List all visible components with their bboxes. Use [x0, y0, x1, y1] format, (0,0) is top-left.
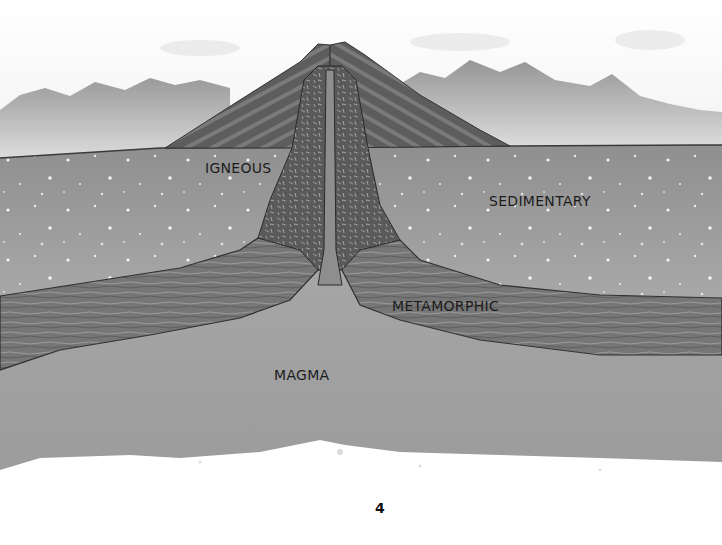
page-number: 4: [375, 500, 385, 516]
label-magma: MAGMA: [274, 368, 329, 382]
book-page: IGNEOUS SEDIMENTARY METAMORPHIC MAGMA 4: [0, 0, 722, 545]
label-igneous: IGNEOUS: [205, 161, 272, 175]
label-metamorphic: METAMORPHIC: [392, 299, 499, 313]
label-sedimentary: SEDIMENTARY: [489, 194, 591, 208]
volcano-cross-section-illustration: [0, 0, 722, 545]
